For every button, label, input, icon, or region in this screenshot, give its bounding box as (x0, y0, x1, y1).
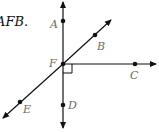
label-A: A (49, 18, 58, 31)
ray-FE (3, 64, 63, 118)
label-E: E (22, 103, 31, 116)
label-F: F (48, 57, 57, 70)
label-D: D (67, 99, 77, 112)
point-C (133, 62, 138, 67)
point-D (61, 103, 66, 108)
point-E (18, 100, 23, 105)
geometry-diagram: AFB. A B C D E F (0, 0, 159, 132)
label-C: C (130, 69, 139, 82)
label-B: B (96, 40, 105, 53)
caption-text: AFB. (0, 14, 28, 29)
point-B (93, 33, 98, 38)
point-A (61, 19, 66, 24)
point-F (61, 62, 66, 67)
